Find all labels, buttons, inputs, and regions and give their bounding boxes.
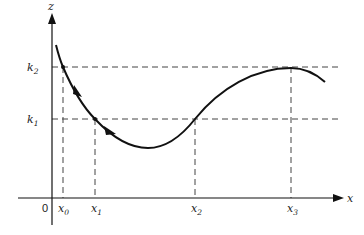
x3-label: x3 — [287, 202, 298, 217]
z-axis-arrow-icon — [48, 13, 56, 24]
point-x0-k2 — [61, 65, 65, 69]
z-axis-label: z — [47, 0, 54, 13]
x-axis-arrow-icon — [333, 194, 344, 202]
direction-arrow-icon — [104, 126, 116, 135]
x-axis-label: x — [347, 192, 354, 205]
guide-lines — [52, 67, 342, 198]
x2-label: x2 — [191, 202, 202, 217]
diagram-canvas: z x 0 k2 k1 x0 x1 x2 x3 — [0, 0, 364, 235]
k2-label: k2 — [27, 61, 39, 76]
x0-label: x0 — [58, 202, 69, 217]
function-curve — [56, 45, 325, 148]
x1-label: x1 — [91, 202, 102, 217]
origin-label: 0 — [42, 202, 48, 214]
point-x1-k1 — [93, 117, 97, 121]
k1-label: k1 — [27, 113, 38, 128]
direction-arrow-icon — [73, 85, 82, 97]
